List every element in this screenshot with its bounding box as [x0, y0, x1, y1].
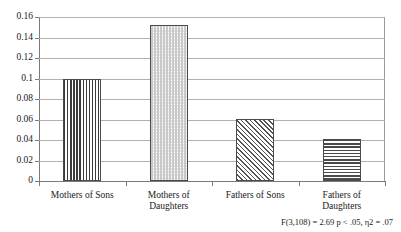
x-axis-tick [39, 182, 40, 186]
bar [323, 139, 361, 181]
y-axis-tick [35, 38, 39, 39]
y-axis-tick-label: 0.02 [16, 156, 33, 166]
chart-title-truncated [0, 0, 401, 5]
y-axis-tick [35, 120, 39, 121]
y-axis-tick-label: 0.14 [16, 33, 33, 43]
y-axis-tick [35, 79, 39, 80]
bar-chart-figure: 00.020.040.060.080.10.120.140.16 Mothers… [0, 0, 401, 232]
y-axis-tick-label: 0.12 [16, 53, 33, 63]
x-axis-tick [385, 182, 386, 186]
plot-area [39, 17, 385, 181]
y-axis-tick-label: 0.04 [16, 135, 33, 145]
category-label-line: Fathers of [323, 190, 361, 200]
bar [236, 119, 274, 182]
category-label-line: Mothers of Sons [51, 190, 114, 200]
y-axis-tick-label: 0 [28, 176, 33, 186]
category-label: Mothers of Sons [39, 190, 126, 201]
category-label-line: Daughters [299, 201, 386, 212]
category-label: Fathers ofDaughters [299, 190, 386, 212]
x-axis-tick [299, 182, 300, 186]
y-axis-tick [35, 161, 39, 162]
gridline [39, 17, 385, 18]
category-label-line: Daughters [126, 201, 213, 212]
y-axis-tick-label: 0.16 [16, 12, 33, 22]
x-axis-tick [212, 182, 213, 186]
y-axis-tick-label: 0.1 [21, 74, 33, 84]
statistics-footnote: F(3,108) = 2.69 p < .05, η2 = .07 [281, 217, 393, 227]
category-label-line: Mothers of [148, 190, 190, 200]
x-axis-tick [126, 182, 127, 186]
category-label: Mothers ofDaughters [126, 190, 213, 212]
y-axis-tick [35, 140, 39, 141]
gridline [39, 38, 385, 39]
category-label: Fathers of Sons [212, 190, 299, 201]
bar [63, 79, 101, 182]
category-label-line: Fathers of Sons [226, 190, 285, 200]
y-axis-tick-label: 0.08 [16, 94, 33, 104]
gridline [39, 58, 385, 59]
bar [150, 25, 188, 181]
y-axis-tick [35, 99, 39, 100]
y-axis-tick-label: 0.06 [16, 115, 33, 125]
y-axis-tick [35, 58, 39, 59]
y-axis-tick [35, 17, 39, 18]
